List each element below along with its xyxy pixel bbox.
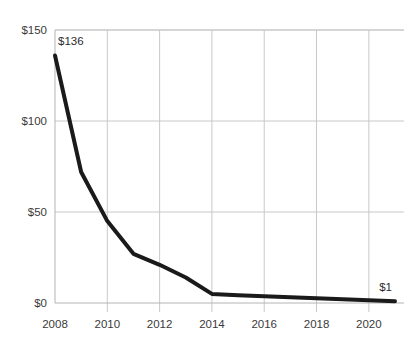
y-axis-tick-label: $50 [28,206,47,218]
data-point-annotation: $136 [58,35,84,47]
x-axis-tick-label: 2020 [356,318,382,330]
x-axis-tick-label: 2018 [304,318,330,330]
data-point-annotation: $1 [379,281,392,293]
x-axis-tick-label: 2014 [199,318,225,330]
chart-canvas: $0$50$100$150 20082010201220142016201820… [0,0,418,344]
line-chart: $0$50$100$150 20082010201220142016201820… [0,0,418,344]
x-axis-tick-label: 2010 [95,318,121,330]
y-axis-tick-label: $150 [21,24,47,36]
x-axis-tick-label: 2008 [42,318,68,330]
x-axis-tick-label: 2012 [147,318,173,330]
y-axis-tick-label: $100 [21,115,47,127]
y-axis-tick-label: $0 [34,297,47,309]
x-axis-tick-label: 2016 [251,318,277,330]
